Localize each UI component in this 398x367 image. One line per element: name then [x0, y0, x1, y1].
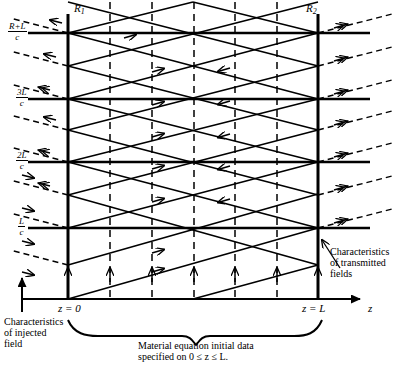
transmitted-field-line-3: fields [330, 268, 389, 279]
mirror-r1-label: R1 [74, 2, 85, 17]
injected-field-line-2: of injected [4, 327, 63, 338]
initial-data-verticals [110, 2, 277, 299]
y-tick-2l-over-c: 2L c [16, 150, 28, 171]
y-tick-r-plus-l-over-c: R+L c [8, 21, 27, 42]
caption-line-1: Material equation initial data [138, 340, 254, 351]
initial-data-caption: Material equation initial data specified… [138, 340, 254, 362]
caption-line-2: specified on 0 ≤ z ≤ L. [138, 351, 254, 362]
injected-field-line-1: Characteristics [4, 316, 63, 327]
x-tick-z-equals-0: z = 0 [58, 302, 81, 314]
transmitted-field-line-2: of transmitted [330, 257, 389, 268]
injected-field-annotation: Characteristics of injected field [4, 316, 63, 350]
mirror-r2-label: R2 [306, 2, 317, 17]
transmitted-field-line-1: Characteristics [330, 246, 389, 257]
transmitted-field-annotation: Characteristics of transmitted fields [330, 246, 389, 280]
z-axis-label: z [368, 302, 372, 314]
injected-field-line-3: field [4, 338, 63, 349]
transmitted-field-arrows [334, 24, 348, 223]
characteristic-lattice [68, 2, 318, 299]
y-tick-l-over-c: L c [18, 216, 25, 237]
characteristic-diagram: R1 R2 R+L c 3L c 2L c L c z = 0 z = L z … [0, 0, 398, 367]
transmitted-field-rays [318, 14, 392, 228]
y-tick-3l-over-c: 3L c [16, 87, 28, 108]
x-tick-z-equals-l: z = L [302, 302, 325, 314]
